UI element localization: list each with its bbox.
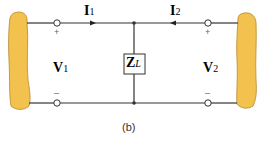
caption: (b) — [122, 121, 135, 133]
terminal-left-bottom — [54, 100, 60, 106]
label-v1: V1 — [53, 60, 68, 76]
junction-bottom — [132, 101, 136, 105]
label-v2: V2 — [203, 60, 218, 76]
plus-left: + — [54, 27, 59, 37]
right-network-block — [237, 13, 257, 108]
terminal-right-top — [205, 20, 211, 26]
arrow-left-icon — [170, 21, 176, 26]
label-zl: ZL — [126, 55, 141, 71]
minus-left: – — [54, 88, 59, 98]
label-i1: I1 — [84, 3, 94, 19]
terminal-right-bottom — [205, 100, 211, 106]
arrow-right-icon — [90, 21, 96, 26]
terminal-left-top — [54, 20, 60, 26]
junction-top — [132, 21, 136, 25]
plus-right: + — [205, 27, 210, 37]
minus-right: – — [205, 88, 210, 98]
left-network-block — [9, 12, 31, 109]
label-i2: I2 — [170, 3, 180, 19]
